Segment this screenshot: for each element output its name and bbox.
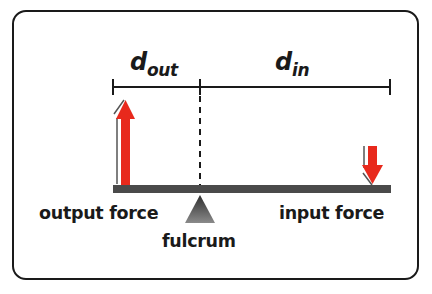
input-force-arrow-icon: [362, 146, 383, 185]
output-force-arrow-icon: [114, 100, 135, 185]
output-force-label: output force: [39, 203, 158, 223]
input-force-label: input force: [279, 203, 384, 223]
d-in-label: din: [275, 48, 309, 80]
lever-bar: [113, 185, 391, 193]
fulcrum-label: fulcrum: [162, 231, 236, 251]
distance-line: [113, 79, 390, 95]
d-out-label: dout: [130, 48, 178, 80]
fulcrum-icon: [185, 195, 215, 223]
